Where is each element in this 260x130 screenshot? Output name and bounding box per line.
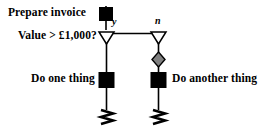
label-prepare-invoice: Prepare invoice bbox=[8, 7, 86, 19]
label-value-question: Value > £1,000? bbox=[18, 30, 97, 42]
label-do-one-thing: Do one thing bbox=[31, 73, 95, 85]
node-action-right-square bbox=[151, 73, 166, 88]
node-action-left-square bbox=[99, 73, 114, 88]
label-do-another-thing: Do another thing bbox=[172, 73, 257, 85]
diagram-canvas: Prepare invoice Value > £1,000? Do one t… bbox=[0, 0, 260, 130]
terminator-right-zigzag-icon bbox=[153, 110, 165, 124]
terminator-left-zigzag-icon bbox=[101, 110, 113, 124]
node-decision-no-triangle bbox=[151, 32, 166, 44]
flowchart-graphic bbox=[0, 0, 260, 130]
label-branch-no: n bbox=[155, 16, 161, 26]
label-branch-yes: y bbox=[112, 17, 116, 27]
node-gray-diamond bbox=[152, 52, 165, 67]
node-start-square bbox=[100, 8, 113, 21]
node-decision-yes-triangle bbox=[99, 32, 114, 44]
